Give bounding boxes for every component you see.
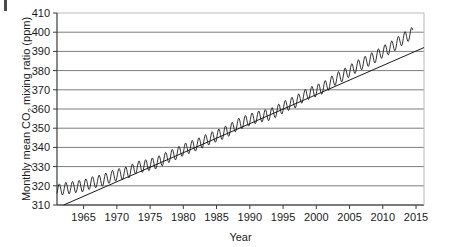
y-tick-label: 370 [32, 84, 50, 96]
co2-keeling-curve-chart: 310320330340350360370380390400410 196519… [0, 0, 452, 247]
x-tick-label: 2015 [404, 211, 428, 223]
data-series [57, 28, 424, 205]
x-axis-tick-labels: 1965197019751980198519901995200020052010… [71, 211, 428, 223]
x-tick-label: 1990 [238, 211, 262, 223]
x-tick-label: 1995 [271, 211, 295, 223]
y-tick-label: 330 [32, 161, 50, 173]
x-tick-label: 1980 [171, 211, 195, 223]
co2-monthly-mean-line [57, 28, 413, 195]
trend-line [64, 48, 424, 205]
x-tick-label: 2000 [304, 211, 328, 223]
x-axis-tick-marks [84, 205, 416, 209]
y-tick-label: 350 [32, 122, 50, 134]
y-tick-label: 400 [32, 26, 50, 38]
x-tick-label: 1970 [105, 211, 129, 223]
x-tick-label: 1985 [204, 211, 228, 223]
x-tick-label: 1965 [71, 211, 95, 223]
x-tick-label: 2010 [371, 211, 395, 223]
y-tick-label: 390 [32, 45, 50, 57]
gridlines [57, 13, 424, 205]
y-tick-label: 410 [32, 7, 50, 19]
x-tick-label: 2005 [337, 211, 361, 223]
y-tick-label: 340 [32, 141, 50, 153]
y-tick-label: 320 [32, 180, 50, 192]
figure-container: 310320330340350360370380390400410 196519… [0, 0, 452, 247]
x-tick-label: 1975 [138, 211, 162, 223]
x-axis-title: Year [229, 231, 252, 243]
y-tick-label: 310 [32, 199, 50, 211]
y-tick-label: 380 [32, 65, 50, 77]
